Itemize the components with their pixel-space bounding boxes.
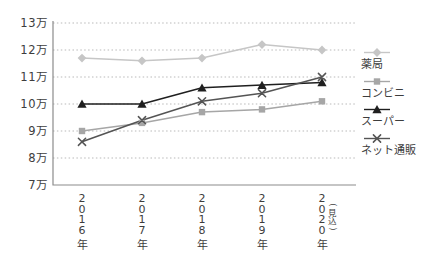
y-tick-label: 7万 [28,178,47,192]
y-tick-label: 9万 [28,124,47,138]
series-薬局-diamond-marker [318,46,327,55]
legend-item-ネット通販: ネット通販 [361,133,416,157]
y-tick-label: 13万 [20,16,47,30]
series-薬局-diamond-marker [258,40,267,49]
legend-item-スーパー: スーパー [361,104,416,128]
y-tick-label: 8万 [28,151,47,165]
series-コンビニ-square-marker [259,106,265,112]
legend-label: ネット通販 [361,144,416,157]
series-ネット通販-x-marker [78,138,85,145]
series-薬局-diamond-marker [78,54,87,63]
chart-legend: 薬局コンビニスーパーネット通販 [361,47,416,161]
y-tick-label: 10万 [20,97,47,111]
legend-item-薬局: 薬局 [361,47,416,71]
legend-square-marker [374,78,380,84]
line-chart-canvas: 7万8万9万10万11万12万13万 2016年2017年2018年2019年2… [0,0,443,258]
legend-swatch [361,47,393,58]
series-コンビニ-square-marker [199,109,205,115]
legend-swatch [361,104,393,115]
series-line-コンビニ [82,101,322,131]
y-tick-label: 11万 [20,70,47,84]
series-コンビニ-square-marker [319,98,325,104]
legend-swatch [361,133,393,144]
legend-label: コンビニ [361,87,416,100]
legend-diamond-marker [373,48,382,57]
series-薬局-diamond-marker [138,56,147,65]
series-薬局-diamond-marker [198,54,207,63]
legend-label: スーパー [361,115,416,128]
y-tick-label: 12万 [20,43,47,57]
legend-swatch [361,76,393,87]
legend-item-コンビニ: コンビニ [361,76,416,100]
series-コンビニ-square-marker [79,128,85,134]
legend-label: 薬局 [361,58,416,71]
